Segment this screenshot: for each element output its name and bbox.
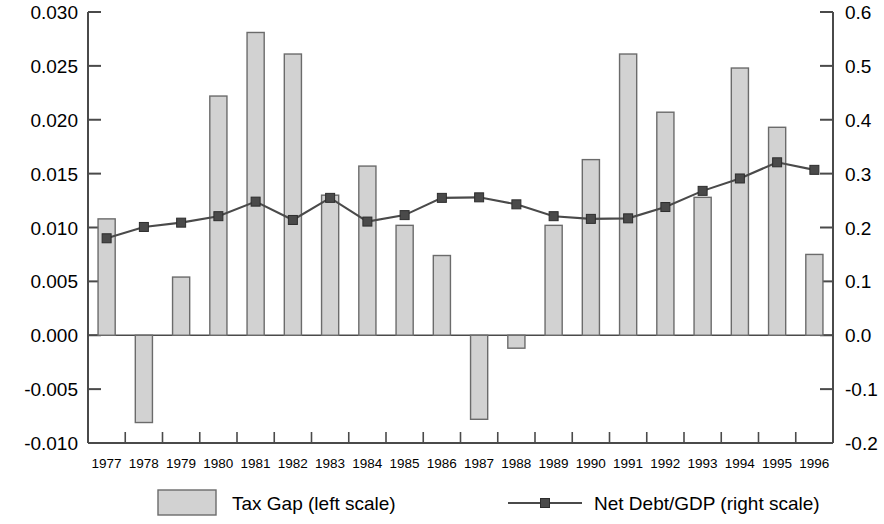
x-axis-tick-label: 1977 bbox=[92, 456, 122, 471]
x-axis-tick-label: 1989 bbox=[539, 456, 569, 471]
line-marker bbox=[363, 217, 372, 226]
line-marker bbox=[475, 193, 484, 202]
left-axis-tick-label: -0.010 bbox=[24, 433, 78, 454]
bar bbox=[396, 225, 413, 335]
bar bbox=[545, 225, 562, 335]
bar bbox=[247, 32, 264, 335]
x-axis-tick-label: 1983 bbox=[315, 456, 345, 471]
bar bbox=[657, 112, 674, 335]
x-axis-tick-label: 1986 bbox=[427, 456, 457, 471]
left-axis-tick-label: 0.025 bbox=[30, 56, 78, 77]
x-axis-tick-label: 1992 bbox=[650, 456, 680, 471]
left-axis-tick-label: 0.015 bbox=[30, 164, 78, 185]
line-marker bbox=[177, 218, 186, 227]
line-marker bbox=[139, 222, 148, 231]
line-marker bbox=[586, 214, 595, 223]
legend-swatch-tax-gap bbox=[158, 490, 216, 515]
x-axis-tick-label: 1991 bbox=[613, 456, 643, 471]
line-marker bbox=[102, 234, 111, 243]
bar bbox=[284, 54, 301, 335]
line-marker bbox=[624, 214, 633, 223]
x-axis-tick-label: 1996 bbox=[799, 456, 829, 471]
bar bbox=[322, 195, 339, 335]
bar bbox=[731, 68, 748, 335]
legend-label-net-debt: Net Debt/GDP (right scale) bbox=[594, 493, 820, 514]
left-axis-tick-label: 0.000 bbox=[30, 325, 78, 346]
legend-marker-net-debt bbox=[541, 499, 550, 508]
tax-gap-net-debt-chart: -0.010-0.0050.0000.0050.0100.0150.0200.0… bbox=[0, 0, 884, 524]
left-axis-tick-label: 0.020 bbox=[30, 110, 78, 131]
left-axis-tick-label: 0.010 bbox=[30, 218, 78, 239]
line-marker bbox=[549, 212, 558, 221]
x-axis-tick-label: 1987 bbox=[464, 456, 494, 471]
x-axis-tick-label: 1993 bbox=[688, 456, 718, 471]
bar bbox=[359, 166, 376, 335]
line-marker bbox=[512, 200, 521, 209]
right-axis-tick-label: 0.1 bbox=[845, 271, 871, 292]
right-axis-tick-label: 0.2 bbox=[845, 218, 871, 239]
right-axis-tick-label: -0.1 bbox=[845, 379, 878, 400]
right-axis-tick-label: -0.2 bbox=[845, 433, 878, 454]
bar bbox=[582, 160, 599, 336]
right-axis-tick-label: 0.3 bbox=[845, 164, 871, 185]
bar bbox=[620, 54, 637, 335]
right-axis-tick-label: 0.0 bbox=[845, 325, 871, 346]
bar bbox=[471, 335, 488, 419]
bar bbox=[508, 335, 525, 348]
line-marker bbox=[214, 212, 223, 221]
bar bbox=[135, 335, 152, 422]
x-axis-tick-label: 1982 bbox=[278, 456, 308, 471]
line-marker bbox=[251, 197, 260, 206]
bar bbox=[694, 197, 711, 335]
x-axis-tick-label: 1979 bbox=[166, 456, 196, 471]
x-axis-tick-label: 1990 bbox=[576, 456, 606, 471]
line-marker bbox=[400, 211, 409, 220]
line-marker bbox=[810, 165, 819, 174]
chart-figure: -0.010-0.0050.0000.0050.0100.0150.0200.0… bbox=[0, 0, 884, 524]
left-axis-tick-label: -0.005 bbox=[24, 379, 78, 400]
line-marker bbox=[288, 215, 297, 224]
x-axis-tick-label: 1988 bbox=[501, 456, 531, 471]
line-marker bbox=[326, 193, 335, 202]
line-marker bbox=[773, 158, 782, 167]
x-axis-tick-label: 1995 bbox=[762, 456, 792, 471]
x-axis-tick-label: 1980 bbox=[203, 456, 233, 471]
x-axis-tick-label: 1994 bbox=[725, 456, 756, 471]
right-axis-tick-label: 0.4 bbox=[845, 110, 872, 131]
legend-label-tax-gap: Tax Gap (left scale) bbox=[232, 493, 396, 514]
bar bbox=[433, 256, 450, 336]
line-marker bbox=[698, 186, 707, 195]
bar bbox=[173, 277, 190, 335]
bar bbox=[806, 254, 823, 335]
x-axis-tick-label: 1985 bbox=[390, 456, 420, 471]
right-axis-tick-label: 0.5 bbox=[845, 56, 871, 77]
line-marker bbox=[735, 174, 744, 183]
left-axis-tick-label: 0.030 bbox=[30, 2, 78, 23]
line-marker bbox=[661, 203, 670, 212]
x-axis-tick-label: 1984 bbox=[352, 456, 383, 471]
line-marker bbox=[437, 193, 446, 202]
x-axis-tick-label: 1978 bbox=[129, 456, 159, 471]
x-axis-tick-label: 1981 bbox=[241, 456, 271, 471]
right-axis-tick-label: 0.6 bbox=[845, 2, 871, 23]
left-axis-tick-label: 0.005 bbox=[30, 271, 78, 292]
